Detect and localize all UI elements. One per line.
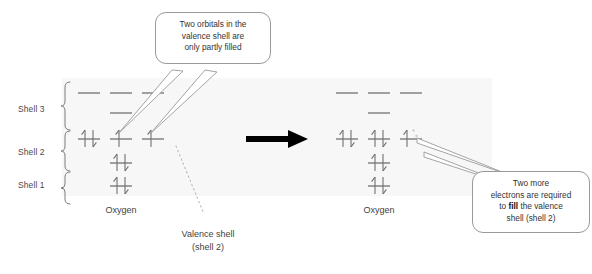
callout-bottom-line-4: shell (shell 2) — [480, 213, 582, 225]
callout-top-line-1: Two orbitals in the — [163, 19, 263, 31]
valence-shell-leader — [176, 146, 204, 214]
callout-bottom-line-1: Two more — [480, 178, 582, 190]
callout-two-more-electrons: Two more electrons are required to fill … — [472, 171, 590, 233]
diagram-canvas: Shell 3 Shell 2 Shell 1 Oxygen Oxygen Tw… — [0, 0, 592, 274]
callout-top-line-2: valence shell are — [163, 31, 263, 43]
callout-bottom-line-3-pre: to — [499, 201, 508, 211]
top-callout-pointers — [118, 70, 217, 134]
callout-bottom-line-3-post: the valence — [518, 201, 563, 211]
callout-bottom-line-3: to fill the valence — [480, 201, 582, 213]
callout-partly-filled: Two orbitals in the valence shell are on… — [155, 12, 271, 64]
shell-brackets — [61, 82, 70, 204]
callout-top-line-3: only partly filled — [163, 42, 263, 54]
incoming-electron-dots — [412, 129, 417, 137]
callout-bottom-line-3-bold: fill — [508, 201, 518, 211]
right-atom-orbitals — [336, 93, 422, 186]
right-arrow-icon — [246, 130, 308, 148]
callout-bottom-line-2: electrons are required — [480, 190, 582, 202]
